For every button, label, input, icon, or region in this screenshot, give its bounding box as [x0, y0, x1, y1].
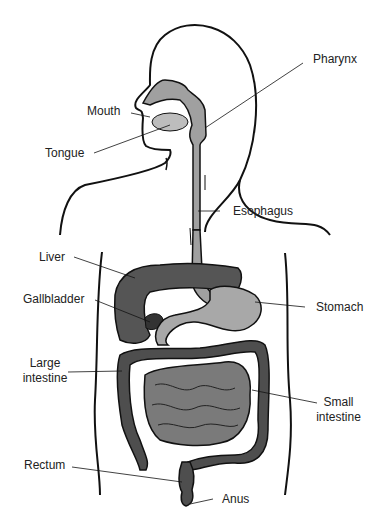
label-mouth: Mouth — [87, 104, 120, 119]
label-stomach: Stomach — [316, 300, 363, 315]
label-anus: Anus — [222, 492, 249, 507]
label-pharynx: Pharynx — [313, 52, 357, 67]
torso-left-outline — [95, 252, 102, 495]
label-liver: Liver — [39, 250, 65, 265]
label-large-intestine: Large intestine — [20, 356, 70, 386]
label-rectum: Rectum — [24, 458, 65, 473]
rectum-shape — [179, 462, 194, 506]
head-outline — [60, 25, 256, 235]
label-small-intestine: Small intestine — [316, 395, 361, 425]
label-esophagus: Esophagus — [233, 204, 293, 219]
torso-right-outline — [285, 253, 291, 495]
tongue-shape — [152, 113, 188, 131]
label-gallbladder: Gallbladder — [23, 292, 84, 307]
pharynx-shape — [143, 80, 206, 230]
label-tongue: Tongue — [45, 146, 84, 161]
